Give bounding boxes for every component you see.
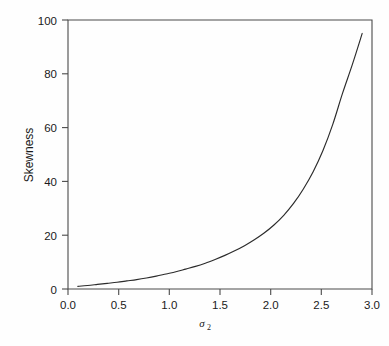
x-tick-label-0.0: 0.0 <box>60 299 76 311</box>
plot-frame <box>68 20 372 289</box>
y-axis-title: Skewness <box>22 128 36 183</box>
skewness-curve <box>78 33 362 286</box>
y-tick-label-100: 100 <box>38 15 57 27</box>
x-axis-tick-labels: 0.0 0.5 1.0 1.5 2.0 2.5 3.0 <box>60 299 380 311</box>
x-axis-ticks <box>68 289 372 295</box>
y-tick-label-60: 60 <box>44 122 57 134</box>
y-tick-label-20: 20 <box>44 230 57 242</box>
skewness-vs-sigma2-chart: 100 80 60 40 20 0 0.0 0.5 1.0 1.5 2.0 2.… <box>0 0 389 346</box>
y-axis-title-label: Skewness <box>22 128 36 183</box>
y-tick-label-80: 80 <box>44 68 57 80</box>
axes-box <box>68 20 372 289</box>
y-tick-label-40: 40 <box>44 176 57 188</box>
x-tick-label-3.0: 3.0 <box>364 299 380 311</box>
x-tick-label-1.0: 1.0 <box>161 299 177 311</box>
x-tick-label-1.5: 1.5 <box>212 299 228 311</box>
x-tick-label-0.5: 0.5 <box>111 299 127 311</box>
x-axis-title-symbol: σ <box>199 317 205 329</box>
chart-figure: 100 80 60 40 20 0 0.0 0.5 1.0 1.5 2.0 2.… <box>0 0 389 346</box>
y-axis-ticks <box>62 20 68 289</box>
x-axis-title-subscript: 2 <box>207 323 211 332</box>
x-tick-label-2.0: 2.0 <box>263 299 279 311</box>
x-tick-label-2.5: 2.5 <box>313 299 329 311</box>
x-axis-title: σ 2 <box>199 317 211 332</box>
y-axis-tick-labels: 100 80 60 40 20 0 <box>38 15 57 296</box>
y-tick-label-0: 0 <box>51 284 57 296</box>
